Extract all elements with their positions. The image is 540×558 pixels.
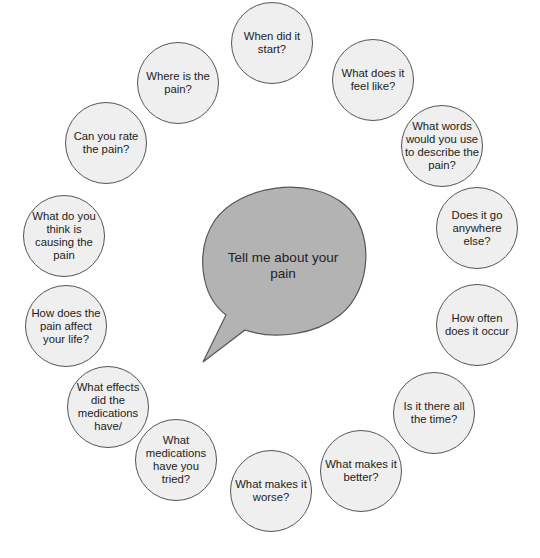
question-circle: What makes it better?: [320, 430, 402, 512]
question-circle: How does the pain affect your life?: [25, 285, 107, 367]
question-text: Can you rate the pain?: [68, 130, 144, 156]
question-text: What words would you use to describe the…: [404, 120, 480, 172]
center-prompt: Tell me about your pain: [223, 250, 343, 282]
question-text: How does the pain affect your life?: [28, 307, 104, 346]
question-text: What does it feel like?: [335, 67, 411, 93]
question-circle: What makes it worse?: [230, 450, 312, 532]
question-text: What makes it better?: [323, 458, 399, 484]
question-text: When did it start?: [234, 30, 310, 56]
question-text: What do you think is causing the pain: [26, 210, 102, 262]
question-text: What makes it worse?: [233, 478, 309, 504]
question-circle: What medications have you tried?: [135, 419, 217, 501]
question-circle: What words would you use to describe the…: [401, 105, 483, 187]
question-text: What medications have you tried?: [138, 434, 214, 486]
question-text: Where is the pain?: [140, 70, 216, 96]
question-circle: How often does it occur: [436, 284, 518, 366]
question-text: Does it go anywhere else?: [439, 209, 515, 248]
question-circle: Is it there all the time?: [393, 372, 475, 454]
question-circle: What does it feel like?: [332, 39, 414, 121]
question-circle: Where is the pain?: [137, 42, 219, 124]
question-text: How often does it occur: [439, 312, 515, 338]
question-text: What effects did the medications have/: [70, 381, 146, 433]
question-circle: What do you think is causing the pain: [23, 195, 105, 277]
question-circle: Can you rate the pain?: [65, 102, 147, 184]
question-circle: Does it go anywhere else?: [436, 187, 518, 269]
question-text: Is it there all the time?: [396, 400, 472, 426]
question-circle: When did it start?: [231, 2, 313, 84]
question-circle: What effects did the medications have/: [67, 366, 149, 448]
pain-assessment-diagram: Tell me about your pain When did it star…: [0, 0, 540, 558]
